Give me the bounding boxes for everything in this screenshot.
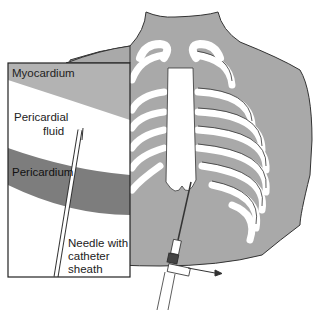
label-myocardium: Myocardium bbox=[12, 67, 75, 80]
label-pericardium: Pericardium bbox=[12, 166, 73, 179]
label-needle-1: Needle with bbox=[68, 237, 128, 250]
pericardiocentesis-illustration bbox=[0, 0, 328, 310]
left-shoulder bbox=[66, 46, 130, 63]
label-pericardial-fluid-1: Pericardial bbox=[14, 111, 68, 124]
sternum bbox=[166, 68, 196, 191]
label-needle-3: sheath bbox=[68, 263, 103, 276]
label-pericardial-fluid-2: fluid bbox=[43, 125, 64, 138]
label-needle-2: catheter bbox=[68, 250, 110, 263]
